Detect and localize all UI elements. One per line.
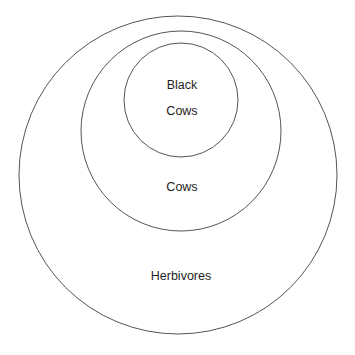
herbivores-circle — [19, 16, 337, 334]
black-cows-label-line1: Black — [167, 78, 198, 92]
herbivores-label: Herbivores — [151, 269, 211, 283]
black-cows-label-line2: Cows — [166, 104, 197, 118]
nested-venn-diagram — [0, 0, 355, 355]
cows-label: Cows — [166, 180, 197, 194]
black-cows-circle — [124, 43, 238, 157]
cows-circle — [81, 31, 281, 231]
